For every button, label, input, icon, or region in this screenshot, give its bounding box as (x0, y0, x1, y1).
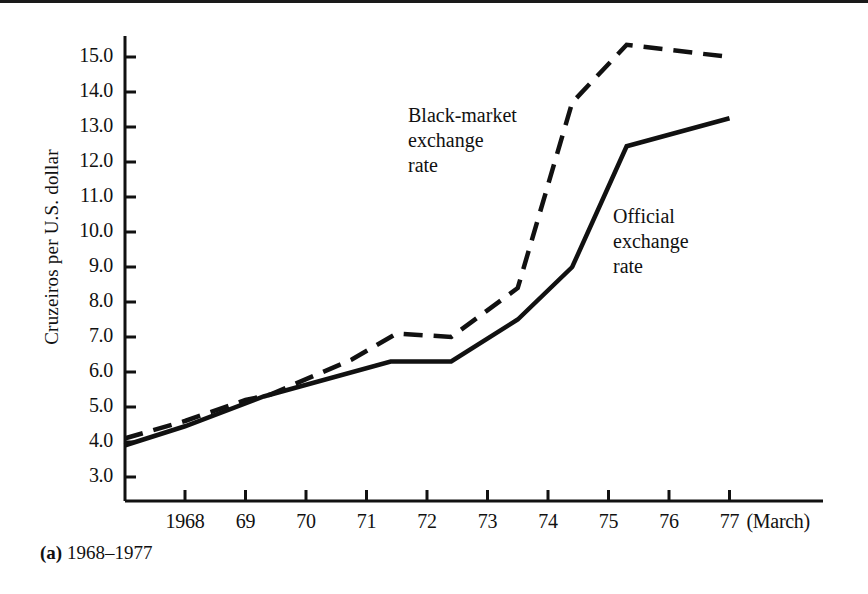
y-tick-label: 15.0 (53, 44, 113, 67)
figure-container: Cruzeiros per U.S. dollar 3.04.05.06.07.… (0, 0, 868, 594)
x-axis-unit-note: (March) (747, 510, 810, 533)
y-tick-label: 8.0 (53, 289, 113, 312)
y-tick-label: 5.0 (53, 394, 113, 417)
y-tick-label: 6.0 (53, 359, 113, 382)
y-tick-label: 10.0 (53, 219, 113, 242)
caption-text: 1968–1977 (67, 542, 153, 563)
y-tick-label: 9.0 (53, 254, 113, 277)
caption-tag: (a) (40, 542, 62, 563)
y-tick-label: 11.0 (53, 184, 113, 207)
y-tick-label: 3.0 (53, 464, 113, 487)
y-tick-label: 4.0 (53, 429, 113, 452)
y-tick-label: 13.0 (53, 114, 113, 137)
series-annotation-official: Official exchange rate (613, 204, 689, 279)
y-tick-label: 7.0 (53, 324, 113, 347)
chart-canvas (0, 0, 868, 594)
figure-caption: (a) 1968–1977 (40, 542, 152, 564)
y-tick-label: 12.0 (53, 149, 113, 172)
y-tick-label: 14.0 (53, 79, 113, 102)
series-annotation-black-market: Black-market exchange rate (408, 103, 517, 178)
